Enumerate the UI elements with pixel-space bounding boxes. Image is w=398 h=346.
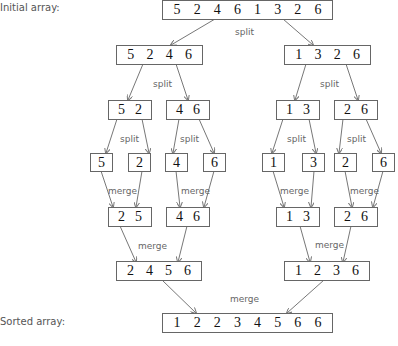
- merge-label: merge: [350, 186, 379, 196]
- single-box: 2: [128, 153, 151, 172]
- single-box: 5: [90, 153, 113, 172]
- single-box: 6: [203, 153, 226, 172]
- single-box: 2: [334, 153, 357, 172]
- merge1-box: 2 5: [108, 207, 152, 227]
- merge2-left-box: 2 4 5 6: [116, 261, 202, 281]
- array-cell: 4: [214, 2, 221, 18]
- merge1-box: 4 6: [166, 207, 210, 227]
- split-label: split: [347, 134, 366, 144]
- split2-box: 4 6: [166, 100, 210, 120]
- single-box: 1: [262, 153, 285, 172]
- array-cell: 1: [295, 47, 302, 63]
- split-label: split: [287, 134, 306, 144]
- merge-label: merge: [280, 186, 309, 196]
- array-cell: 4: [173, 155, 180, 171]
- array-cell: 1: [295, 263, 302, 279]
- array-cell: 2: [127, 263, 134, 279]
- merge1-box: 1 3: [276, 207, 320, 227]
- merge-label: merge: [138, 241, 167, 251]
- split1-right-box: 1 3 2 6: [284, 45, 371, 65]
- sorted-array-box: 1 2 2 3 4 5 6 6: [162, 313, 333, 333]
- array-cell: 6: [361, 102, 368, 118]
- array-cell: 6: [352, 263, 359, 279]
- array-cell: 2: [194, 2, 201, 18]
- array-cell: 6: [211, 155, 218, 171]
- array-cell: 1: [286, 209, 293, 225]
- array-cell: 6: [234, 2, 241, 18]
- split2-box: 5 2: [108, 100, 152, 120]
- array-cell: 2: [146, 47, 153, 63]
- array-cell: 1: [254, 2, 261, 18]
- array-cell: 6: [184, 263, 191, 279]
- array-cell: 6: [193, 102, 200, 118]
- array-cell: 2: [342, 155, 349, 171]
- array-cell: 5: [174, 2, 181, 18]
- array-cell: 2: [135, 102, 142, 118]
- array-cell: 3: [303, 102, 310, 118]
- array-cell: 5: [274, 315, 281, 331]
- array-cell: 4: [176, 102, 183, 118]
- array-cell: 2: [344, 102, 351, 118]
- array-cell: 6: [361, 209, 368, 225]
- array-cell: 5: [165, 263, 172, 279]
- split-label: split: [320, 79, 339, 89]
- array-cell: 5: [127, 47, 134, 63]
- array-cell: 2: [344, 209, 351, 225]
- array-cell: 3: [274, 2, 281, 18]
- split-label: split: [153, 79, 172, 89]
- array-cell: 6: [185, 47, 192, 63]
- array-cell: 6: [380, 155, 387, 171]
- merge-label: merge: [108, 186, 137, 196]
- array-cell: 4: [254, 315, 261, 331]
- split-label: split: [235, 27, 254, 37]
- split-label: split: [120, 134, 139, 144]
- array-cell: 3: [333, 263, 340, 279]
- array-cell: 3: [310, 155, 317, 171]
- split1-left-box: 5 2 4 6: [116, 45, 203, 65]
- array-cell: 2: [194, 315, 201, 331]
- array-cell: 2: [294, 2, 301, 18]
- array-cell: 2: [314, 263, 321, 279]
- array-cell: 6: [353, 47, 360, 63]
- merge-label: merge: [315, 240, 344, 250]
- array-cell: 5: [118, 102, 125, 118]
- split2-box: 2 6: [334, 100, 378, 120]
- merge-label: merge: [230, 294, 259, 304]
- split2-box: 1 3: [276, 100, 320, 120]
- merge2-right-box: 1 2 3 6: [284, 261, 370, 281]
- array-cell: 1: [286, 102, 293, 118]
- array-cell: 2: [118, 209, 125, 225]
- merge-label: merge: [181, 186, 210, 196]
- array-cell: 1: [270, 155, 277, 171]
- initial-array-box: 5 2 4 6 1 3 2 6: [162, 0, 333, 20]
- single-box: 3: [302, 153, 325, 172]
- array-cell: 2: [334, 47, 341, 63]
- array-cell: 2: [136, 155, 143, 171]
- array-cell: 3: [303, 209, 310, 225]
- array-cell: 4: [146, 263, 153, 279]
- array-cell: 6: [314, 315, 321, 331]
- split-label: split: [180, 134, 199, 144]
- array-cell: 5: [135, 209, 142, 225]
- merge1-box: 2 6: [334, 207, 378, 227]
- array-cell: 6: [294, 315, 301, 331]
- array-cell: 3: [314, 47, 321, 63]
- array-cell: 2: [214, 315, 221, 331]
- array-cell: 4: [176, 209, 183, 225]
- array-cell: 4: [166, 47, 173, 63]
- array-cell: 5: [98, 155, 105, 171]
- array-cell: 3: [234, 315, 241, 331]
- array-cell: 1: [174, 315, 181, 331]
- array-cell: 6: [314, 2, 321, 18]
- single-box: 6: [372, 153, 395, 172]
- array-cell: 6: [193, 209, 200, 225]
- single-box: 4: [165, 153, 188, 172]
